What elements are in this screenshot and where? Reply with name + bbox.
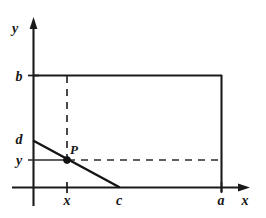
point-p-label: P bbox=[70, 142, 79, 157]
x-axis-label: x bbox=[241, 193, 249, 208]
tick-label-y: y bbox=[14, 153, 23, 168]
y-axis-label: y bbox=[10, 21, 19, 36]
x-axis-arrow-icon bbox=[238, 184, 250, 192]
point-p-marker bbox=[64, 157, 71, 164]
tick-label-d: d bbox=[16, 132, 24, 147]
figure-container: y x b d y x c a P bbox=[0, 0, 266, 218]
coordinate-diagram: y x b d y x c a P bbox=[0, 0, 266, 218]
tick-label-c: c bbox=[116, 193, 123, 208]
y-axis-arrow-icon bbox=[30, 17, 38, 29]
tick-label-x: x bbox=[63, 193, 71, 208]
tick-label-a: a bbox=[218, 193, 225, 208]
tick-label-b: b bbox=[16, 69, 23, 84]
